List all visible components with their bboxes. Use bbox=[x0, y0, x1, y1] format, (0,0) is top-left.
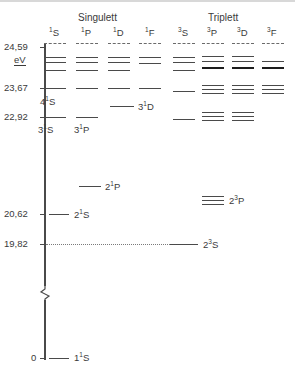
level-line bbox=[262, 89, 284, 90]
ionization-dash-3p bbox=[202, 43, 224, 44]
level-line bbox=[232, 56, 254, 57]
level-line bbox=[76, 57, 98, 58]
level-line-2-3p bbox=[202, 204, 224, 205]
state-label-1-1s: 11S bbox=[74, 352, 89, 363]
level-line bbox=[262, 93, 284, 94]
level-line bbox=[76, 62, 98, 63]
level-line bbox=[139, 57, 161, 58]
state-label-3-1p: 31P bbox=[74, 124, 89, 135]
col-term-3d: D bbox=[241, 27, 248, 38]
ionization-dash-1p bbox=[76, 43, 98, 44]
column-header-1p: 1P bbox=[81, 27, 91, 38]
level-line-thick bbox=[262, 67, 284, 69]
state-term: S bbox=[83, 209, 89, 220]
level-line bbox=[108, 62, 130, 63]
ionization-dash-1f bbox=[139, 43, 161, 44]
level-line bbox=[173, 62, 195, 63]
state-label-2-3p: 23P bbox=[229, 195, 244, 206]
column-header-3d: 3D bbox=[237, 27, 248, 38]
column-header-3f: 3F bbox=[267, 27, 276, 38]
state-label-3-1d: 31D bbox=[138, 101, 154, 112]
column-header-3p: 3P bbox=[207, 27, 217, 38]
level-line bbox=[202, 93, 224, 94]
col-term-3f: F bbox=[271, 27, 277, 38]
level-line bbox=[202, 85, 224, 86]
ionization-dash-1s bbox=[44, 43, 66, 44]
level-line bbox=[202, 116, 224, 117]
level-line bbox=[173, 119, 195, 120]
state-term: S bbox=[212, 239, 218, 250]
level-line bbox=[232, 116, 254, 117]
level-line-4-1s bbox=[44, 88, 66, 89]
level-line bbox=[262, 61, 284, 62]
level-line-1-1s bbox=[49, 358, 69, 359]
group-title-triplett: Triplett bbox=[208, 13, 238, 23]
axis-break-symbol bbox=[38, 283, 54, 303]
column-header-1f: 1F bbox=[145, 27, 154, 38]
level-line bbox=[44, 62, 66, 63]
level-line bbox=[44, 57, 66, 58]
level-line bbox=[202, 120, 224, 121]
level-line-2-1s bbox=[49, 214, 69, 215]
state-label-4-1s: 41S bbox=[40, 96, 55, 107]
level-line bbox=[108, 88, 130, 89]
level-line bbox=[262, 85, 284, 86]
state-label-2-1s: 21S bbox=[74, 209, 89, 220]
state-label-2-1p: 21P bbox=[105, 181, 120, 192]
col-term-1f: F bbox=[149, 27, 155, 38]
axis-label-0: 0 bbox=[31, 353, 36, 363]
level-line bbox=[232, 61, 254, 62]
col-term-1s: S bbox=[53, 27, 59, 38]
level-line-2-3s bbox=[170, 244, 198, 245]
ionization-dash-3s bbox=[173, 43, 195, 44]
state-term: P bbox=[83, 124, 89, 135]
level-line-3-1d bbox=[110, 106, 134, 107]
level-line bbox=[202, 89, 224, 90]
level-line bbox=[173, 70, 195, 71]
level-line bbox=[202, 56, 224, 57]
state-label-2-3s: 23S bbox=[203, 239, 218, 250]
level-line bbox=[173, 91, 195, 92]
state-term: D bbox=[147, 101, 154, 112]
col-term-3p: P bbox=[211, 27, 217, 38]
level-line bbox=[44, 70, 66, 71]
top-divider bbox=[0, 0, 295, 2]
column-header-3s: 3S bbox=[178, 27, 188, 38]
level-line bbox=[173, 57, 195, 58]
level-line bbox=[202, 112, 224, 113]
axis-label-2062: 20,62 bbox=[4, 209, 28, 219]
ionization-dash-1d bbox=[108, 43, 130, 44]
level-line bbox=[108, 57, 130, 58]
col-term-3s: S bbox=[182, 27, 188, 38]
axis-tick-2459 bbox=[40, 47, 46, 48]
level-line bbox=[202, 61, 224, 62]
energy-level-diagram: Singulett Triplett 1S 1P 1D 1F 3S 3P 3D … bbox=[0, 0, 295, 377]
level-line-2-3p bbox=[202, 196, 224, 197]
state-term: P bbox=[238, 195, 244, 206]
axis-tick-2062 bbox=[40, 214, 46, 215]
axis-unit-label: eV bbox=[14, 55, 26, 66]
level-line bbox=[108, 70, 130, 71]
axis-label-2292: 22,92 bbox=[4, 112, 28, 122]
energy-axis-lower bbox=[44, 300, 46, 360]
level-line bbox=[139, 88, 161, 89]
level-line bbox=[232, 85, 254, 86]
axis-label-2367: 23,67 bbox=[4, 83, 28, 93]
level-line bbox=[232, 112, 254, 113]
axis-tick-0 bbox=[40, 358, 46, 359]
ionization-dash-3d bbox=[232, 43, 254, 44]
energy-axis-upper bbox=[44, 44, 46, 286]
level-line-3-1p bbox=[76, 117, 98, 118]
level-line bbox=[232, 93, 254, 94]
column-header-1d: 1D bbox=[113, 27, 124, 38]
level-line bbox=[139, 63, 161, 64]
level-line-2-1p bbox=[79, 186, 101, 187]
state-term: S bbox=[49, 96, 55, 107]
axis-label-2459: 24,59 bbox=[4, 42, 28, 52]
level-line bbox=[232, 120, 254, 121]
col-term-1d: D bbox=[117, 27, 124, 38]
level-line-3-1s bbox=[44, 117, 66, 118]
axis-label-1982: 19,82 bbox=[4, 239, 28, 249]
level-line-2-3p bbox=[202, 200, 224, 201]
level-line-thick bbox=[202, 67, 224, 69]
